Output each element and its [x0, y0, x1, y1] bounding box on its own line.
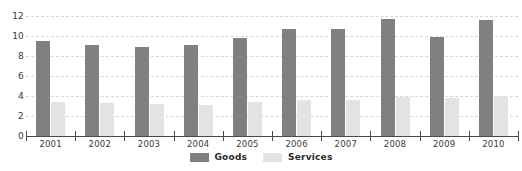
bar-services-2008	[396, 97, 410, 136]
bar-services-2006	[297, 100, 311, 136]
bar-services-2009	[445, 98, 459, 136]
legend-swatch-services	[263, 153, 282, 162]
bar-goods-2008	[381, 19, 395, 136]
y-axis: 024681012	[0, 0, 24, 171]
x-tick-label-2005: 2005	[222, 139, 272, 149]
legend-item-goods[interactable]: Goods	[190, 152, 248, 162]
bar-goods-2009	[430, 37, 444, 136]
bar-goods-2003	[135, 47, 149, 136]
y-tick-label: 2	[2, 112, 24, 121]
legend-item-services[interactable]: Services	[263, 152, 332, 162]
x-tick-label-2007: 2007	[321, 139, 371, 149]
bar-goods-2004	[184, 45, 198, 136]
x-tick-label-2008: 2008	[370, 139, 420, 149]
x-tick-label-2003: 2003	[124, 139, 174, 149]
legend: GoodsServices	[0, 152, 522, 162]
bar-services-2003	[150, 104, 164, 136]
bar-services-2002	[100, 103, 114, 136]
y-tick-label: 12	[2, 12, 24, 21]
x-tick-label-2006: 2006	[272, 139, 322, 149]
x-tick-label-2001: 2001	[26, 139, 76, 149]
y-tick-label: 4	[2, 92, 24, 101]
x-tick-label-2009: 2009	[419, 139, 469, 149]
x-tick-label-2002: 2002	[75, 139, 125, 149]
legend-label-goods: Goods	[215, 152, 248, 162]
bar-services-2004	[199, 105, 213, 136]
bar-goods-2005	[233, 38, 247, 136]
legend-label-services: Services	[288, 152, 332, 162]
bar-goods-2006	[282, 29, 296, 136]
y-tick-label: 10	[2, 32, 24, 41]
bars-layer	[26, 16, 518, 136]
x-tick-label-2010: 2010	[468, 139, 518, 149]
y-tick-label: 0	[2, 132, 24, 141]
bar-services-2005	[248, 102, 262, 136]
bar-goods-2007	[331, 29, 345, 136]
y-tick-label: 6	[2, 72, 24, 81]
bar-services-2001	[51, 102, 65, 136]
bar-goods-2001	[36, 41, 50, 136]
bar-goods-2002	[85, 45, 99, 136]
bar-services-2010	[494, 96, 508, 136]
bar-services-2007	[346, 100, 360, 136]
x-tick-label-2004: 2004	[173, 139, 223, 149]
legend-swatch-goods	[190, 153, 209, 162]
y-tick-label: 8	[2, 52, 24, 61]
bar-chart: 024681012 200120022003200420052006200720…	[0, 0, 522, 171]
bar-goods-2010	[479, 20, 493, 136]
